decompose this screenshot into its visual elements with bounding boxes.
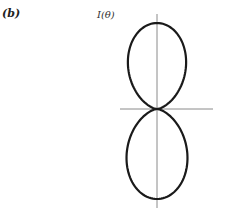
- polar-diagram: [0, 0, 227, 217]
